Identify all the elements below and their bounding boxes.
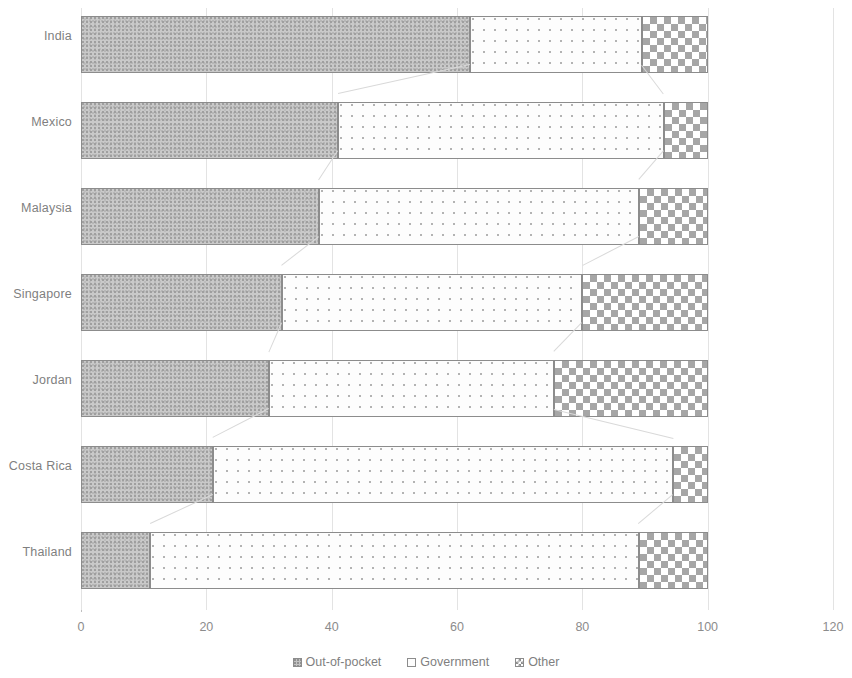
bar-segment-other <box>673 446 707 503</box>
bar-segment-other <box>639 188 708 245</box>
bar-segment-government <box>319 188 639 245</box>
bar-segment-government <box>282 274 583 331</box>
bar-segment-out-of-pocket <box>81 188 319 245</box>
bar-segment-out-of-pocket <box>81 360 269 417</box>
category-label: Costa Rica <box>0 459 72 473</box>
x-tick-label: 40 <box>312 620 352 634</box>
bar-row <box>81 360 833 417</box>
bar-row <box>81 274 833 331</box>
bar-row <box>81 188 833 245</box>
category-label: Singapore <box>0 287 72 301</box>
bar-row <box>81 16 833 73</box>
legend-item-oop[interactable]: Out-of-pocket <box>293 655 382 669</box>
category-label: India <box>0 29 72 43</box>
bar-segment-government <box>470 16 642 73</box>
bar-segment-other <box>554 360 708 417</box>
bar-segment-government <box>150 532 639 589</box>
legend-label: Other <box>528 655 559 669</box>
bar-row <box>81 532 833 589</box>
x-tick-label: 0 <box>61 620 101 634</box>
legend-label: Government <box>420 655 489 669</box>
gridline <box>833 8 834 610</box>
category-label: Mexico <box>0 115 72 129</box>
bar-segment-government <box>338 102 664 159</box>
bar-segment-other <box>582 274 707 331</box>
legend-item-oth[interactable]: Other <box>515 655 559 669</box>
legend-label: Out-of-pocket <box>306 655 382 669</box>
category-label: Thailand <box>0 545 72 559</box>
legend-swatch-oth-icon <box>515 658 524 667</box>
bar-segment-government <box>269 360 554 417</box>
legend-item-gov[interactable]: Government <box>407 655 489 669</box>
bar-segment-other <box>642 16 708 73</box>
bar-row <box>81 102 833 159</box>
bar-segment-government <box>213 446 674 503</box>
bar-segment-out-of-pocket <box>81 102 338 159</box>
bar-segment-out-of-pocket <box>81 274 282 331</box>
plot-area <box>81 8 833 610</box>
x-tick-label: 60 <box>437 620 477 634</box>
stacked-bar-chart: IndiaMexicoMalaysiaSingaporeJordanCosta … <box>0 0 852 678</box>
chart-legend: Out-of-pocketGovernmentOther <box>0 655 852 669</box>
bar-row <box>81 446 833 503</box>
bar-segment-out-of-pocket <box>81 16 470 73</box>
x-tick-label: 20 <box>186 620 226 634</box>
category-label: Malaysia <box>0 201 72 215</box>
bar-segment-other <box>639 532 708 589</box>
bar-segment-out-of-pocket <box>81 532 150 589</box>
bar-segment-other <box>664 102 708 159</box>
legend-swatch-oop-icon <box>293 658 302 667</box>
category-label: Jordan <box>0 373 72 387</box>
x-tick-label: 100 <box>688 620 728 634</box>
x-tick-label: 120 <box>813 620 852 634</box>
bar-segment-out-of-pocket <box>81 446 213 503</box>
legend-swatch-gov-icon <box>407 658 416 667</box>
x-tick-label: 80 <box>562 620 602 634</box>
